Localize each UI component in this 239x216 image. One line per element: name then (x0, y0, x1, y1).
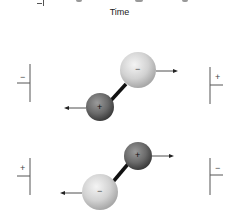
panel2-large-sphere-sign: − (97, 187, 102, 196)
panel1-left-plate-sign: − (20, 73, 25, 82)
arrow-left-head (60, 191, 65, 195)
panel1-right-plate-sign: + (215, 73, 220, 82)
panel2-small-sphere-sign: + (135, 151, 140, 160)
dipole-illustration (0, 0, 239, 216)
arrow-right-head (169, 154, 174, 158)
panel-1 (17, 52, 223, 121)
arrow-left-head (64, 106, 69, 110)
panel1-large-sphere-sign: − (135, 65, 140, 74)
dipole-bond (112, 164, 128, 183)
panel1-small-sphere-sign: + (97, 103, 102, 112)
panel2-left-plate-sign: + (20, 164, 25, 173)
arrow-right-head (173, 69, 178, 73)
panel2-right-plate-sign: − (215, 164, 220, 173)
panel-2 (17, 142, 223, 210)
